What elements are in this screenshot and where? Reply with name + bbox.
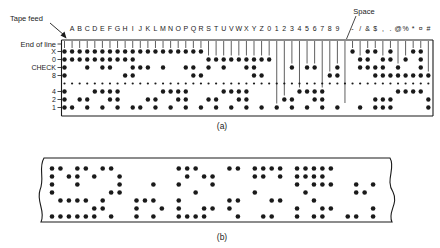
punch-hole — [227, 206, 232, 211]
punch-hole — [366, 65, 370, 69]
channel-label-1: 1 — [52, 104, 56, 111]
punch-hole — [84, 198, 89, 203]
punch-hole — [75, 198, 80, 203]
punch-hole — [202, 206, 207, 211]
character-label: A — [70, 25, 75, 32]
punch-hole — [58, 166, 63, 171]
punch-hole — [320, 182, 325, 187]
punch-hole — [236, 166, 241, 171]
punch-hole — [261, 214, 266, 219]
character-label: 3 — [290, 25, 294, 32]
punch-hole — [191, 49, 195, 53]
punch-hole — [298, 82, 300, 84]
punch-hole — [214, 105, 218, 109]
punch-hole — [295, 214, 300, 219]
punch-hole — [70, 57, 74, 61]
punch-hole — [329, 82, 331, 84]
punch-hole — [411, 49, 415, 53]
punch-hole — [70, 105, 74, 109]
punch-hole — [116, 82, 118, 84]
character-label: $ — [373, 25, 377, 32]
punch-hole — [312, 65, 316, 69]
punch-hole — [94, 82, 96, 84]
punch-hole — [320, 166, 325, 171]
punch-hole — [397, 82, 399, 84]
punch-hole — [146, 65, 150, 69]
punch-hole — [312, 174, 317, 179]
punch-hole — [77, 97, 81, 101]
punch-hole — [426, 105, 430, 109]
punch-hole — [131, 57, 135, 61]
punch-hole — [176, 198, 181, 203]
character-label: I — [132, 25, 134, 32]
punch-hole — [193, 166, 198, 171]
character-label: F — [108, 25, 112, 32]
punch-hole — [419, 65, 423, 69]
punch-hole — [373, 65, 377, 69]
character-label: D — [92, 25, 97, 32]
punch-hole — [244, 57, 248, 61]
punch-hole — [371, 206, 376, 211]
punch-hole — [253, 166, 258, 171]
punch-hole — [131, 65, 135, 69]
punch-hole — [354, 190, 359, 195]
punch-hole — [303, 190, 308, 195]
character-label: U — [221, 25, 226, 32]
punch-hole — [62, 73, 66, 77]
punch-hole — [206, 65, 210, 69]
punch-hole — [93, 49, 97, 53]
punch-hole — [389, 82, 391, 84]
punch-hole — [335, 65, 339, 69]
punch-hole — [221, 57, 225, 61]
character-label: O — [175, 25, 181, 32]
punch-hole — [373, 73, 377, 77]
punch-hole — [283, 82, 285, 84]
punch-hole — [210, 182, 215, 187]
punch-hole — [62, 57, 66, 61]
punch-hole — [320, 174, 325, 179]
character-label: 8 — [328, 25, 332, 32]
punch-hole — [373, 97, 377, 101]
channel-label-4: 4 — [52, 88, 56, 95]
tape-a-punch-holes — [62, 49, 430, 109]
punch-hole — [115, 57, 119, 61]
character-label: % — [402, 25, 408, 32]
punch-hole — [117, 174, 122, 179]
character-label: S — [206, 25, 211, 32]
punch-hole — [335, 73, 339, 77]
punch-hole — [320, 214, 325, 219]
punch-hole — [108, 57, 112, 61]
punch-hole — [101, 82, 103, 84]
character-label: / — [359, 25, 361, 32]
punch-hole — [71, 82, 73, 84]
punch-hole — [350, 49, 354, 53]
punch-hole — [214, 57, 218, 61]
punch-hole — [305, 65, 309, 69]
punch-hole — [245, 82, 247, 84]
character-label: @ — [394, 25, 401, 32]
punch-hole — [185, 214, 190, 219]
punch-hole — [170, 82, 172, 84]
punch-hole — [67, 214, 72, 219]
punch-hole — [168, 49, 172, 53]
punch-hole — [206, 97, 210, 101]
punch-hole — [411, 73, 415, 77]
punch-hole — [268, 82, 270, 84]
punch-hole — [366, 57, 370, 61]
punch-hole — [176, 206, 181, 211]
punch-hole — [100, 57, 104, 61]
character-label: * — [412, 25, 415, 32]
channel-label-0: 0 — [52, 56, 56, 63]
punch-hole — [184, 89, 188, 93]
punch-hole — [115, 89, 119, 93]
punch-hole — [412, 82, 414, 84]
punch-hole — [132, 82, 134, 84]
punch-hole — [131, 49, 135, 53]
punch-hole — [312, 214, 317, 219]
punch-hole — [185, 174, 190, 179]
punch-hole — [109, 190, 114, 195]
punch-hole — [85, 97, 89, 101]
punch-hole — [92, 206, 97, 211]
character-label: E — [100, 25, 105, 32]
punch-hole — [396, 73, 400, 77]
